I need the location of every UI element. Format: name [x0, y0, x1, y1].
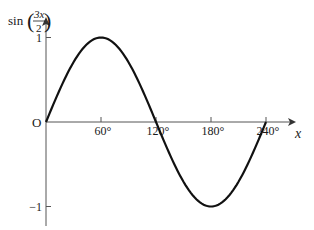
- x-ticks: 60°120°180°240°: [95, 117, 280, 138]
- y-label-right-paren: ): [44, 8, 51, 33]
- origin-label: O: [32, 115, 41, 130]
- sine-graph: 60°120°180°240° 1−1 O x sin ( 3x 2 ): [0, 0, 314, 230]
- x-axis-label: x: [294, 126, 302, 141]
- x-tick-label: 60°: [95, 124, 112, 138]
- y-tick-label: −1: [29, 200, 42, 214]
- y-axis-label: sin ( 3x 2 ): [8, 8, 51, 34]
- y-label-numerator: 3x: [33, 8, 45, 20]
- chart-svg: 60°120°180°240° 1−1 O x sin ( 3x 2 ): [0, 0, 314, 230]
- y-label-denominator: 2: [36, 22, 42, 34]
- y-label-prefix: sin: [8, 13, 24, 28]
- x-tick-label: 180°: [202, 124, 225, 138]
